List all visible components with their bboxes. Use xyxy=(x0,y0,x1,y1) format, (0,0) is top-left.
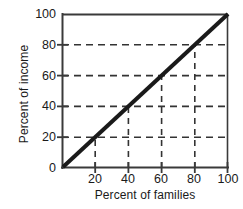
lorenz-curve-chart: Percent of income 100 80 60 40 20 0 20 4… xyxy=(0,0,243,209)
plot-area xyxy=(0,0,243,209)
equality-line-series xyxy=(63,14,228,167)
x-axis-title: Percent of families xyxy=(62,188,228,202)
